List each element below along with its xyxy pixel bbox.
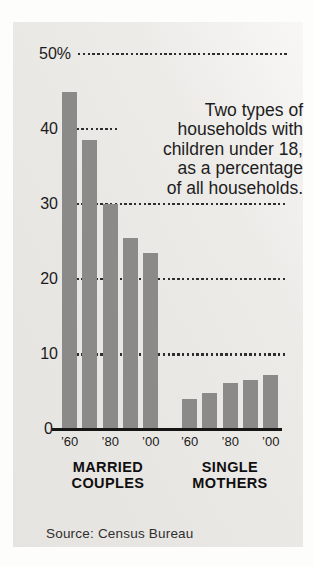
chart-title: Two types of households with children un… [123, 101, 303, 198]
y-axis-label: 0 [13, 421, 53, 437]
x-tick-label: ’60 [61, 435, 78, 448]
bar [82, 140, 97, 429]
newspaper-chart-page: Two types of households with children un… [0, 0, 314, 566]
group-label: SINGLE MOTHERS [192, 459, 267, 491]
bar [223, 383, 238, 430]
y-axis-label: 30 [18, 196, 58, 212]
x-tick-label: ’00 [262, 435, 279, 448]
y-axis-label: 20 [18, 271, 58, 287]
group-label: MARRIED COUPLES [72, 459, 145, 491]
bar [263, 375, 278, 429]
x-tick-label: ’80 [222, 435, 239, 448]
bar [62, 92, 77, 430]
y-axis-label: 50% [39, 46, 79, 62]
x-tick-label: ’00 [142, 435, 159, 448]
y-axis-label: 40 [18, 121, 58, 137]
bar [143, 253, 158, 429]
x-axis-line [52, 428, 282, 431]
bar-chart: 50%403020100’60’80’00MARRIED COUPLES’60’… [0, 0, 314, 566]
gridline [78, 53, 287, 55]
source-note: Source: Census Bureau [46, 526, 194, 541]
x-tick-label: ’80 [102, 435, 119, 448]
bar [182, 399, 197, 430]
bar [103, 204, 118, 429]
bar [202, 393, 217, 429]
y-axis-label: 10 [18, 346, 58, 362]
bar [243, 380, 258, 430]
x-tick-label: ’60 [181, 435, 198, 448]
bar [123, 238, 138, 430]
